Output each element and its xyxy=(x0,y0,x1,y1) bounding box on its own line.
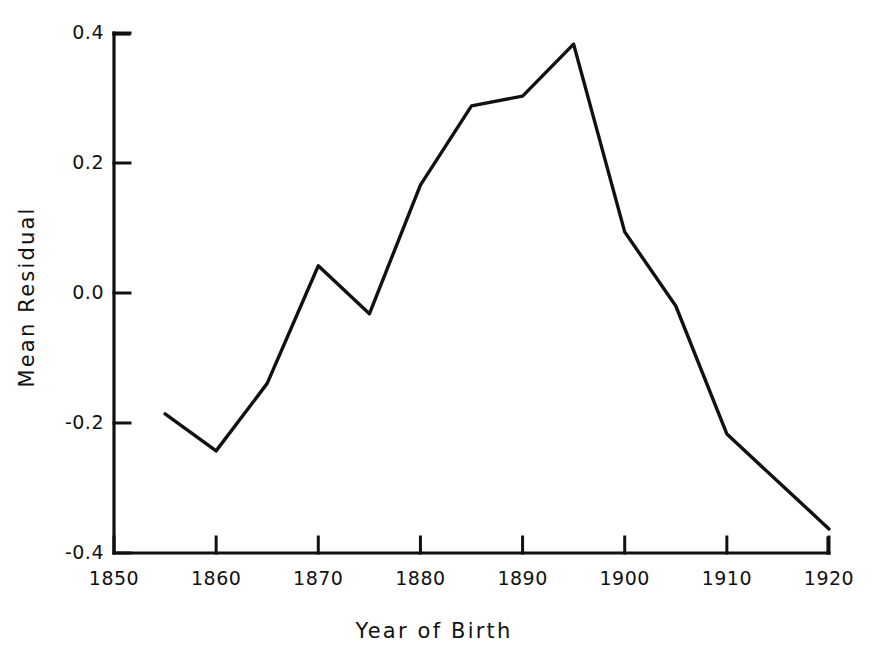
y-axis-label: Mean Residual xyxy=(15,206,39,387)
y-axis-tick-label: -0.2 xyxy=(65,411,104,433)
x-axis-label: Year of Birth xyxy=(354,619,512,643)
x-axis-tick-label: 1870 xyxy=(268,567,368,589)
chart-plot-area: Mean Residual Year of Birth xyxy=(0,0,874,659)
y-axis-tick-label: 0.2 xyxy=(72,151,104,173)
data-series-line xyxy=(165,44,829,529)
x-axis-tick-label: 1920 xyxy=(779,567,874,589)
x-axis-tick-label: 1910 xyxy=(677,567,777,589)
x-axis-tick-label: 1900 xyxy=(575,567,675,589)
y-axis-tick-label: -0.4 xyxy=(65,541,104,563)
x-axis-tick-label: 1860 xyxy=(166,567,266,589)
chart-figure: Mean Residual Year of Birth -0.4-0.20.00… xyxy=(0,0,874,659)
y-axis-tick-label: 0.0 xyxy=(72,281,104,303)
x-axis-tick-label: 1850 xyxy=(64,567,164,589)
x-axis-tick-label: 1890 xyxy=(473,567,573,589)
y-axis-ticks xyxy=(114,33,130,553)
y-axis-tick-label: 0.4 xyxy=(72,21,104,43)
x-axis-ticks xyxy=(114,537,829,553)
axis-spines xyxy=(114,33,829,553)
x-axis-tick-label: 1880 xyxy=(370,567,470,589)
